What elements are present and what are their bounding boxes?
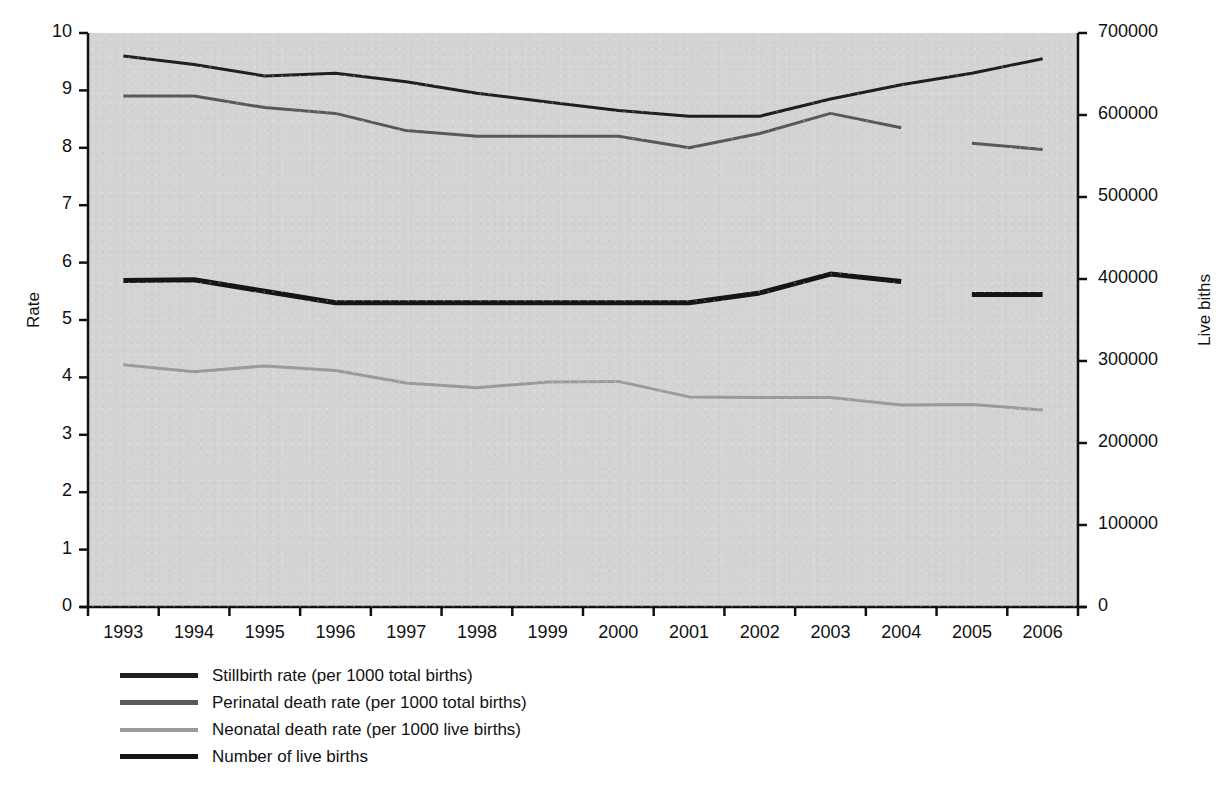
right-tick-label: 100000 (1098, 513, 1158, 534)
x-tick-label-1993: 1993 (88, 622, 158, 643)
legend-item-1: Perinatal death rate (per 1000 total bir… (120, 689, 740, 716)
left-tick-label: 9 (38, 78, 72, 99)
legend-label: Neonatal death rate (per 1000 live birth… (212, 720, 521, 740)
left-tick-label: 1 (38, 538, 72, 559)
x-tick-label-2005: 2005 (937, 622, 1007, 643)
right-tick-label: 500000 (1098, 185, 1158, 206)
right-tick-label: 300000 (1098, 349, 1158, 370)
legend-line-swatch (120, 728, 198, 732)
legend-label: Perinatal death rate (per 1000 total bir… (212, 693, 527, 713)
x-tick-label-2004: 2004 (866, 622, 936, 643)
left-tick-label: 8 (38, 136, 72, 157)
x-tick-label-1995: 1995 (230, 622, 300, 643)
x-tick-label-1996: 1996 (301, 622, 371, 643)
right-tick-label: 600000 (1098, 103, 1158, 124)
right-tick-label: 0 (1098, 595, 1108, 616)
right-axis-title: Live biths (1195, 255, 1215, 365)
x-tick-label-1999: 1999 (513, 622, 583, 643)
x-tick-label-2002: 2002 (725, 622, 795, 643)
chart-figure: Rate Live biths 012345678910010000020000… (0, 0, 1225, 791)
legend-label: Stillbirth rate (per 1000 total births) (212, 666, 473, 686)
x-tick-label-2006: 2006 (1008, 622, 1078, 643)
left-tick-label: 10 (38, 21, 72, 42)
right-tick-label: 400000 (1098, 267, 1158, 288)
x-tick-label-2001: 2001 (654, 622, 724, 643)
x-tick-label-1994: 1994 (159, 622, 229, 643)
left-tick-label: 2 (38, 480, 72, 501)
legend-line-swatch (120, 700, 198, 705)
x-tick-label-1998: 1998 (442, 622, 512, 643)
legend-line-swatch (120, 673, 198, 678)
legend-line-swatch (120, 754, 198, 759)
legend-item-2: Neonatal death rate (per 1000 live birth… (120, 716, 740, 743)
left-tick-label: 5 (38, 308, 72, 329)
legend-label: Number of live births (212, 747, 368, 767)
plot-background (88, 33, 1078, 607)
x-tick-label-2000: 2000 (583, 622, 653, 643)
legend-item-3: Number of live births (120, 743, 740, 770)
x-tick-label-2003: 2003 (796, 622, 866, 643)
left-tick-label: 4 (38, 365, 72, 386)
chart-legend: Stillbirth rate (per 1000 total births)P… (120, 662, 740, 770)
left-tick-label: 6 (38, 251, 72, 272)
right-tick-label: 200000 (1098, 431, 1158, 452)
legend-item-0: Stillbirth rate (per 1000 total births) (120, 662, 740, 689)
right-tick-label: 700000 (1098, 21, 1158, 42)
left-tick-label: 0 (38, 595, 72, 616)
left-tick-label: 7 (38, 193, 72, 214)
x-tick-label-1997: 1997 (371, 622, 441, 643)
left-tick-label: 3 (38, 423, 72, 444)
